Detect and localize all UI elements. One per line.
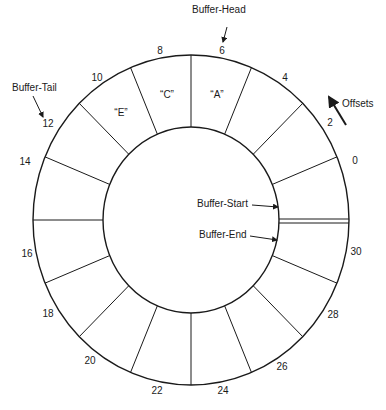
offset-label: 28: [327, 309, 338, 320]
segment-divider: [45, 256, 110, 284]
offset-label: 16: [21, 248, 32, 259]
segment-divider: [225, 68, 252, 135]
offset-label: 20: [84, 355, 95, 366]
segment-divider: [253, 103, 302, 154]
buffer-tail-arrow-icon: [33, 96, 43, 117]
segment-divider: [79, 286, 128, 337]
cell-a: “A”: [210, 89, 223, 100]
offset-label: 24: [217, 385, 228, 396]
offset-label: 4: [282, 72, 288, 83]
segment-divider: [272, 256, 337, 284]
offset-label: 18: [42, 308, 53, 319]
offset-label: 22: [151, 385, 162, 396]
segment-divider: [272, 157, 337, 185]
circular-buffer-diagram: [0, 0, 386, 410]
offset-label: 10: [91, 72, 102, 83]
buffer-start-label: Buffer-Start: [197, 198, 248, 209]
offset-label: 26: [276, 361, 287, 372]
cell-c: “C”: [160, 89, 174, 100]
segment-divider: [253, 286, 302, 337]
offset-label: 6: [219, 45, 225, 56]
offsets-label: Offsets: [342, 98, 374, 109]
buffer-head-arrow-icon: [223, 27, 227, 42]
buffer-end-arrow-icon: [250, 236, 277, 240]
offset-label: 30: [350, 246, 361, 257]
offset-label: 8: [157, 45, 163, 56]
buffer-start-arrow-icon: [252, 205, 278, 207]
offset-label: 2: [327, 117, 333, 128]
cell-e: “E”: [114, 107, 127, 118]
buffer-head-label: Buffer-Head: [192, 4, 246, 15]
offset-label: 0: [352, 155, 358, 166]
segment-divider: [225, 306, 252, 373]
segment-divider: [131, 306, 158, 373]
buffer-tail-label: Buffer-Tail: [12, 82, 57, 93]
offset-label: 12: [42, 118, 53, 129]
segment-divider: [131, 68, 158, 135]
inner-ring: [103, 127, 279, 313]
segment-divider: [45, 157, 110, 185]
offset-label: 14: [19, 156, 30, 167]
buffer-end-label: Buffer-End: [199, 229, 247, 240]
